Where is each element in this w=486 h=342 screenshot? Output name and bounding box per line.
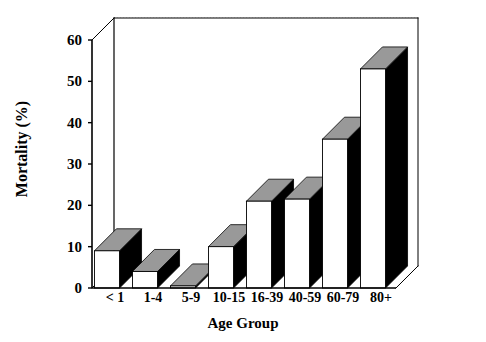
y-tick-label-0: 0 <box>48 280 82 297</box>
x-tick-label-1: 1-4 <box>144 290 163 306</box>
chart-container: Mortality (%) Age Group 0102030405060 < … <box>0 0 486 342</box>
y-tick-label-20: 20 <box>48 197 82 214</box>
x-tick-label-3: 10-15 <box>213 290 246 306</box>
y-tick-label-30: 30 <box>48 156 82 173</box>
x-tick-label-2: 5-9 <box>182 290 201 306</box>
y-tick-label-50: 50 <box>48 73 82 90</box>
bar-7 <box>360 47 407 288</box>
x-tick-label-6: 60-79 <box>327 290 360 306</box>
x-tick-label-0: < 1 <box>106 290 124 306</box>
y-tick-label-10: 10 <box>48 238 82 255</box>
x-tick-label-4: 16-39 <box>251 290 284 306</box>
y-tick-label-60: 60 <box>48 32 82 49</box>
y-tick-label-40: 40 <box>48 114 82 131</box>
x-tick-label-5: 40-59 <box>289 290 322 306</box>
x-tick-label-7: 80+ <box>370 290 392 306</box>
